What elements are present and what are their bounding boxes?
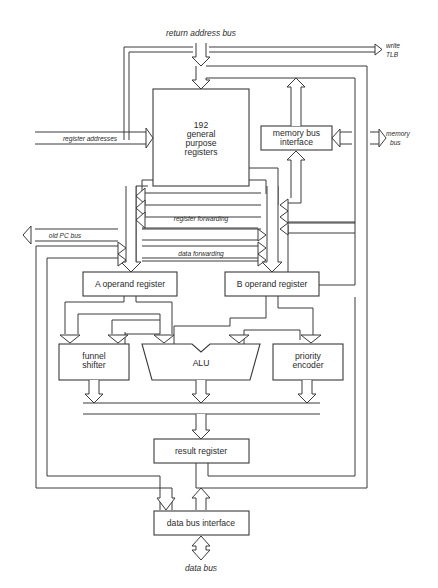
register-forwarding-label: register forwarding <box>174 215 229 223</box>
forward-left-arrow-3 <box>136 212 145 228</box>
b-operand-register-label: B operand register <box>237 279 308 289</box>
register-addresses-label: register addresses <box>63 135 118 143</box>
funnel-shifter-block: funnel shifter <box>59 344 129 380</box>
registers-line-4: registers <box>185 147 218 157</box>
return-address-bus-label: return address bus <box>166 28 237 38</box>
data-bus-interface-up-arrow <box>192 488 210 510</box>
old-pc-bus: old PC bus <box>23 226 118 244</box>
priority-encoder-block: priority encoder <box>273 344 343 380</box>
data-bus-interface-block: data bus interface <box>154 511 249 535</box>
write-tlb-label-1: write <box>386 42 400 49</box>
result-register-input-arrow <box>192 414 210 439</box>
forward-right-arrow-2 <box>258 242 266 254</box>
memory-bus-interface-line-2: interface <box>280 137 313 147</box>
funnel-shifter-output-arrow <box>85 380 103 403</box>
forward-right-arrow-1 <box>258 229 266 241</box>
alu-block: ALU <box>142 344 260 380</box>
b-column-feed-arrow-1 <box>280 199 288 211</box>
memory-bus-lower-arrow <box>287 151 305 203</box>
a-operand-register-label: A operand register <box>95 279 165 289</box>
alu-label: ALU <box>193 358 210 368</box>
data-bus-bidirectional-arrow <box>192 536 210 560</box>
alu-output-arrow <box>192 380 210 403</box>
data-forwarding-bus: data forwarding <box>142 228 266 266</box>
priority-encoder-input-arrow <box>301 335 321 343</box>
processor-block-diagram: return address bus write TLB 192 general… <box>0 0 438 588</box>
funnel-shifter-line-2: shifter <box>82 360 106 370</box>
priority-encoder-output-arrow <box>298 380 316 403</box>
old-pc-bus-arrow-icon <box>23 226 31 244</box>
priority-encoder-line-2: encoder <box>292 360 323 370</box>
write-tlb-label-2: TLB <box>386 51 399 58</box>
return-address-down-arrow <box>192 43 210 66</box>
data-bus-interface-label: data bus interface <box>167 518 236 528</box>
register-addresses-bus: register addresses <box>35 128 153 148</box>
alu-input-arrow-1 <box>154 335 174 343</box>
memory-bus-in-arrow <box>332 129 340 147</box>
b-operand-register-block: B operand register <box>225 272 319 296</box>
funnel-shifter-input-arrow-1 <box>60 335 80 343</box>
memory-bus-up-arrow <box>287 78 305 126</box>
data-bus-label: data bus <box>185 563 218 573</box>
register-file-block: 192 general purpose registers <box>153 89 249 186</box>
memory-bus-out-arrow-icon <box>379 129 386 147</box>
b-column-feed-arrow-3 <box>280 223 288 235</box>
result-register-block: result register <box>154 439 249 463</box>
a-operand-register-block: A operand register <box>83 272 177 296</box>
register-addresses-arrow-icon <box>146 128 153 148</box>
memory-bus-interface-block: memory bus interface <box>261 126 332 150</box>
memory-bus-label-1: memory <box>386 130 411 138</box>
a-column-feed-arrow-1 <box>118 242 126 254</box>
data-forwarding-label: data forwarding <box>178 250 224 258</box>
b-column-feed-arrow-2 <box>280 211 288 223</box>
write-tlb-arrow-icon <box>375 44 382 55</box>
result-register-label: result register <box>175 446 227 456</box>
memory-bus-label-2: bus <box>390 139 401 146</box>
old-pc-bus-label: old PC bus <box>49 232 82 239</box>
alu-input-arrow-2 <box>229 335 249 343</box>
